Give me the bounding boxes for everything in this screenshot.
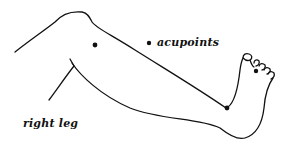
knee-crease bbox=[49, 59, 74, 100]
acupoint-toe bbox=[254, 69, 258, 73]
leg-acupoint-diagram: acupoints right leg bbox=[0, 0, 291, 151]
toe-4 bbox=[264, 68, 270, 74]
big-toe bbox=[243, 54, 252, 61]
acupoint-thigh bbox=[93, 43, 98, 48]
caption-right-leg: right leg bbox=[23, 117, 78, 130]
leg-lower-outline bbox=[72, 63, 273, 139]
acupoint-ankle bbox=[225, 106, 230, 111]
big-toe-side bbox=[250, 60, 254, 67]
toe-5 bbox=[268, 72, 274, 79]
leg-upper-outline bbox=[15, 12, 226, 108]
foot-front bbox=[228, 58, 243, 107]
legend-dot-icon bbox=[147, 41, 151, 45]
legend-label: acupoints bbox=[157, 36, 219, 49]
toe-2 bbox=[254, 60, 259, 66]
